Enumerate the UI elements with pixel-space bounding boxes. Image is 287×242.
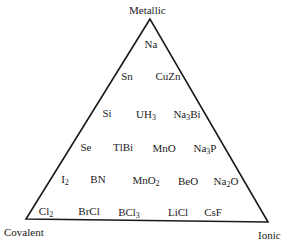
formula-text: CsF <box>204 206 222 218</box>
formula-text: Na <box>145 38 158 50</box>
compound-label-na3bi: Na3Bi <box>173 108 200 120</box>
formula-text: MnO <box>132 174 155 186</box>
formula-subscript: 3 <box>136 211 140 220</box>
compound-label-licl: LiCl <box>168 206 188 218</box>
compound-label-i2: I2 <box>61 173 69 185</box>
compound-label-tlbi: TlBi <box>113 141 133 153</box>
formula-subscript: 2 <box>49 210 53 219</box>
formula-text: Na <box>173 108 186 120</box>
formula-text: Na <box>214 175 227 187</box>
vertex-label-metallic: Metallic <box>129 4 166 16</box>
formula-text: UH <box>136 108 152 120</box>
compound-label-na3p: Na3P <box>194 142 217 154</box>
formula-text: MnO <box>152 142 175 154</box>
compound-label-na: Na <box>145 38 158 50</box>
compound-label-sn: Sn <box>121 70 133 82</box>
vertex-label-covalent: Covalent <box>4 226 44 238</box>
compound-label-csf: CsF <box>204 206 222 218</box>
formula-text: Bi <box>190 108 200 120</box>
formula-text: TlBi <box>113 141 133 153</box>
formula-text: BCl <box>118 206 136 218</box>
formula-text: O <box>230 175 238 187</box>
formula-text: CuZn <box>155 70 180 82</box>
formula-subscript: 2 <box>65 178 69 187</box>
compound-label-si: Si <box>102 107 111 119</box>
formula-text: BeO <box>178 175 198 187</box>
compound-label-mno: MnO <box>152 142 175 154</box>
compound-label-cuzn: CuZn <box>155 70 180 82</box>
compound-label-bn: BN <box>90 173 105 185</box>
formula-text: Sn <box>121 70 133 82</box>
formula-text: Cl <box>39 205 49 217</box>
compound-label-na2o: Na2O <box>214 175 239 187</box>
formula-text: Si <box>102 107 111 119</box>
formula-subscript: 3 <box>152 113 156 122</box>
compound-label-se: Se <box>81 141 92 153</box>
compound-label-mno2: MnO2 <box>132 174 159 186</box>
formula-text: LiCl <box>168 206 188 218</box>
compound-label-uh3: UH3 <box>136 108 156 120</box>
vertex-label-ionic: Ionic <box>258 229 281 241</box>
formula-text: Na <box>194 142 207 154</box>
compound-label-cl2: Cl2 <box>39 205 53 217</box>
formula-text: BrCl <box>78 205 99 217</box>
formula-text: P <box>210 142 216 154</box>
formula-text: Se <box>81 141 92 153</box>
formula-text: BN <box>90 173 105 185</box>
compound-label-beo: BeO <box>178 175 198 187</box>
compound-label-bcl3: BCl3 <box>118 206 140 218</box>
compound-label-brcl: BrCl <box>78 205 99 217</box>
formula-subscript: 2 <box>156 179 160 188</box>
